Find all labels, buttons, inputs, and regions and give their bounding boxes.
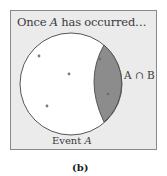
outcome-point: [107, 93, 109, 95]
outcome-point: [46, 105, 49, 108]
outcome-point: [38, 55, 41, 58]
figure-caption: (b): [72, 162, 88, 173]
event-a-label: Event A: [52, 135, 92, 146]
outcome-point: [99, 58, 101, 60]
panel-title: Once A has occurred…: [17, 15, 146, 29]
outcome-point: [68, 73, 71, 76]
intersection-label: A ∩ B: [124, 69, 155, 81]
